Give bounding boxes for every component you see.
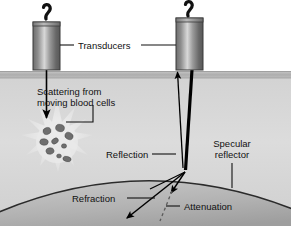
- blood-cell: [57, 154, 62, 158]
- transducer-left-cap: [33, 22, 60, 26]
- transducer-right-body: [176, 18, 203, 70]
- scattering-label-line2: moving blood cells: [37, 97, 115, 108]
- transducer-right-cap: [176, 18, 203, 22]
- blood-cell: [61, 144, 66, 148]
- ultrasound-diagram: Transducers Scattering from moving blood…: [0, 0, 291, 226]
- attenuation-label: Attenuation: [184, 201, 232, 212]
- specular-reflector-label-line2: reflector: [215, 149, 249, 160]
- reflection-label: Reflection: [106, 149, 148, 160]
- transducers-label: Transducers: [78, 40, 131, 51]
- skin-surface: [0, 72, 291, 79]
- diagram-canvas: Transducers Scattering from moving blood…: [0, 0, 291, 226]
- transducer-left-body: [33, 22, 60, 70]
- scattering-label-line1: Scattering from: [37, 86, 101, 97]
- specular-reflector-label-line1: Specular: [213, 138, 251, 149]
- refraction-label: Refraction: [72, 193, 115, 204]
